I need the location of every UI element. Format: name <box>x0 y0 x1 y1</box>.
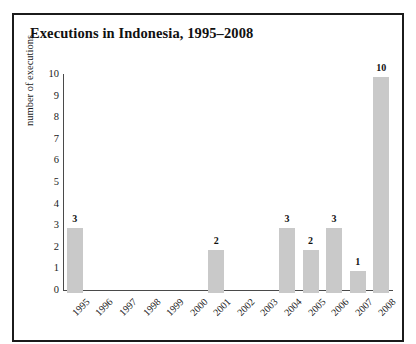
chart-frame: Executions in Indonesia, 1995–2008 numbe… <box>12 13 404 342</box>
y-tick-label: 2 <box>19 242 59 253</box>
bar[interactable] <box>303 250 319 293</box>
bar[interactable] <box>208 250 224 293</box>
bar-slot <box>157 77 181 293</box>
bar-slot <box>134 77 158 293</box>
y-tick-label: 4 <box>19 199 59 210</box>
bar-slot: 2 <box>299 77 323 293</box>
bar-slot: 10 <box>369 77 393 293</box>
bar-slot: 1 <box>346 77 370 293</box>
bar[interactable] <box>326 228 342 293</box>
bar-slot <box>228 77 252 293</box>
bar[interactable] <box>279 228 295 293</box>
page-title: Executions in Indonesia, 1995–2008 <box>30 25 253 42</box>
y-tick-label: 9 <box>19 91 59 102</box>
bar-value-label: 1 <box>346 257 370 267</box>
bar-value-label: 2 <box>299 236 323 246</box>
y-tick-label: 8 <box>19 112 59 123</box>
bar-value-label: 3 <box>63 214 87 224</box>
bar-value-label: 3 <box>322 214 346 224</box>
bar-slot: 2 <box>204 77 228 293</box>
y-tick-label: 5 <box>19 177 59 188</box>
y-tick-label: 7 <box>19 134 59 145</box>
bar[interactable] <box>350 271 366 293</box>
y-tick-label: 0 <box>19 285 59 296</box>
bar-slot <box>181 77 205 293</box>
bar-value-label: 2 <box>204 236 228 246</box>
bar-slot: 3 <box>322 77 346 293</box>
bar-slot <box>252 77 276 293</box>
bar-slot: 3 <box>63 77 87 293</box>
plot-area: number of executions 012345678910 323231… <box>63 74 393 294</box>
bar-slot <box>87 77 111 293</box>
y-tick-label: 10 <box>19 69 59 80</box>
bar-value-label: 10 <box>369 63 393 73</box>
y-tick-label: 3 <box>19 220 59 231</box>
bar-slot <box>110 77 134 293</box>
bar[interactable] <box>373 77 389 293</box>
bar-value-label: 3 <box>275 214 299 224</box>
y-tick-label: 6 <box>19 155 59 166</box>
bar-slot: 3 <box>275 77 299 293</box>
bar[interactable] <box>67 228 83 293</box>
y-tick-label: 1 <box>19 263 59 274</box>
